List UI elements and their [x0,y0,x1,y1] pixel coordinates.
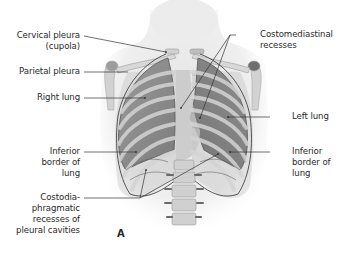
panel-letter: A [117,228,125,239]
vertebral-column [172,160,196,225]
lung-pleura-figure: Cervical pleura (cupola) Parietal pleura… [0,0,362,256]
label-inferior-border-left-side: Inferior border of lung [20,146,80,179]
label-left-lung: Left lung [292,111,352,122]
label-costodiaphragmatic-recesses: Costodia- phragmatic recesses of pleural… [0,192,80,236]
label-right-lung: Right lung [10,92,80,103]
label-inferior-border-right-side: Inferior border of lung [292,146,352,179]
label-cervical-pleura: Cervical pleura (cupola) [10,30,80,52]
label-parietal-pleura: Parietal pleura [5,66,80,77]
label-costomediastinal-recesses: Costomediastinal recesses [260,29,360,51]
